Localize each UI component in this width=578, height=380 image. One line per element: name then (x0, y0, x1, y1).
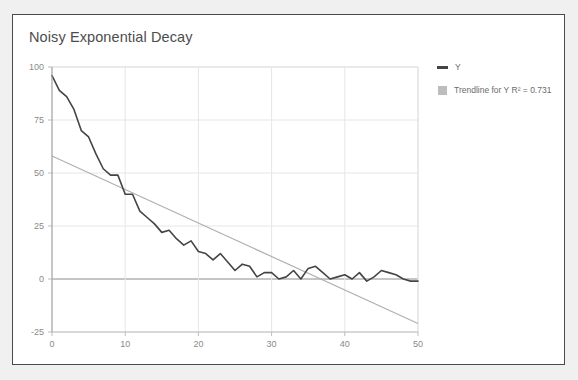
trendline-series (52, 156, 418, 323)
gridlines (52, 67, 418, 332)
legend-label-trendline: Trendline for Y R² = 0.731 (454, 85, 551, 95)
svg-text:50: 50 (34, 168, 44, 178)
svg-text:0: 0 (49, 339, 54, 349)
svg-text:100: 100 (29, 62, 44, 72)
svg-text:10: 10 (120, 339, 130, 349)
legend-item-trendline[interactable]: Trendline for Y R² = 0.731 (437, 84, 562, 96)
page-background: Noisy Exponential Decay -250255075100 01… (0, 0, 578, 380)
chart-legend: Y Trendline for Y R² = 0.731 (437, 61, 562, 107)
legend-label-y: Y (455, 62, 461, 72)
svg-text:30: 30 (267, 339, 277, 349)
svg-text:50: 50 (413, 339, 423, 349)
svg-text:0: 0 (39, 274, 44, 284)
data-series-y (52, 75, 418, 281)
svg-text:40: 40 (340, 339, 350, 349)
legend-item-y[interactable]: Y (437, 61, 562, 73)
legend-line-icon (437, 66, 448, 69)
axis-ticks (48, 67, 418, 336)
svg-text:25: 25 (34, 221, 44, 231)
chart-card: Noisy Exponential Decay -250255075100 01… (12, 14, 565, 365)
x-axis-labels: 01020304050 (49, 339, 423, 349)
svg-text:75: 75 (34, 115, 44, 125)
legend-square-icon (438, 86, 447, 95)
svg-text:20: 20 (193, 339, 203, 349)
svg-text:-25: -25 (31, 327, 44, 337)
y-axis-labels: -250255075100 (29, 62, 44, 337)
